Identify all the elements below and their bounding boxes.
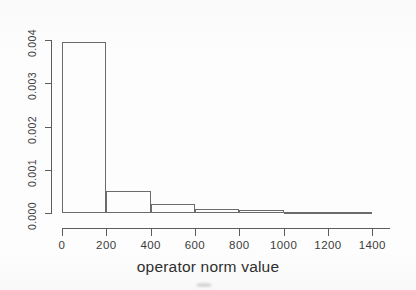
histogram-bar: [62, 42, 106, 213]
histogram-bar: [151, 204, 195, 214]
histogram-bar: [328, 212, 372, 214]
y-tick-label: 0.001: [26, 159, 38, 187]
x-tick-mark: [328, 229, 329, 236]
y-tick-label: 0.003: [26, 72, 38, 100]
y-tick-label: 0.002: [26, 116, 38, 144]
scan-artifact: [196, 283, 212, 287]
x-tick-mark: [372, 229, 373, 236]
y-tick-mark: [45, 170, 52, 171]
y-tick-mark: [45, 213, 52, 214]
y-tick-label: 0.000: [26, 202, 38, 230]
y-tick-mark: [45, 40, 52, 41]
y-tick-label: 0.004: [26, 29, 38, 57]
x-axis-line: [62, 228, 390, 229]
x-tick-mark: [239, 229, 240, 236]
x-tick-mark: [106, 229, 107, 236]
histogram-bar: [106, 191, 150, 213]
histogram-figure: 0.0000.0010.0020.0030.004 02004006008001…: [0, 0, 416, 290]
histogram-bar: [284, 212, 328, 214]
x-tick-mark: [151, 229, 152, 236]
x-axis-label: operator norm value: [0, 258, 416, 276]
y-tick-mark: [45, 83, 52, 84]
y-tick-mark: [45, 127, 52, 128]
x-tick-label: 1400: [342, 239, 402, 251]
histogram-bar: [195, 209, 239, 213]
x-tick-mark: [62, 229, 63, 236]
x-tick-mark: [195, 229, 196, 236]
x-tick-mark: [284, 229, 285, 236]
histogram-bar: [239, 210, 283, 213]
